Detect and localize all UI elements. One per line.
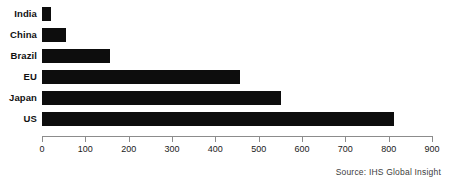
bar-row: Japan	[0, 88, 449, 108]
x-axis-tick-label: 600	[294, 144, 309, 155]
category-label-eu: EU	[0, 72, 37, 82]
x-axis-tick-label: 900	[424, 144, 439, 155]
bar-row: Brazil	[0, 46, 449, 66]
bar-us	[42, 112, 394, 126]
x-axis-tick-label: 400	[208, 144, 223, 155]
x-axis-tick	[389, 136, 390, 142]
bar-track	[42, 49, 432, 63]
x-axis-ticks	[42, 136, 432, 142]
x-axis-tick	[129, 136, 130, 142]
bar-track	[42, 28, 432, 42]
x-axis-tick-label: 200	[121, 144, 136, 155]
category-label-brazil: Brazil	[0, 51, 37, 61]
bar-row: US	[0, 109, 449, 129]
x-axis-tick-labels: 0100200300400500600700800900	[0, 144, 449, 158]
bar-row: India	[0, 4, 449, 24]
category-label-us: US	[0, 114, 37, 124]
bar-row: EU	[0, 67, 449, 87]
x-axis-tick-label: 0	[39, 144, 44, 155]
category-label-india: India	[0, 9, 37, 19]
bar-brazil	[42, 49, 110, 63]
source-note: Source: IHS Global Insight	[336, 167, 441, 177]
plot-area: India China Brazil EU Japan	[0, 0, 449, 137]
x-axis-tick	[85, 136, 86, 142]
bar-chart-figure: India China Brazil EU Japan	[0, 0, 449, 188]
x-axis-tick-label: 700	[338, 144, 353, 155]
x-axis-tick-label: 500	[251, 144, 266, 155]
bar-track	[42, 112, 432, 126]
x-axis-tick	[259, 136, 260, 142]
x-axis-tick-label: 100	[78, 144, 93, 155]
bar-row: China	[0, 25, 449, 45]
x-axis-tick	[302, 136, 303, 142]
category-label-china: China	[0, 30, 37, 40]
bar-track	[42, 91, 432, 105]
x-axis-tick	[215, 136, 216, 142]
bar-eu	[42, 70, 240, 84]
x-axis-tick	[172, 136, 173, 142]
bar-china	[42, 28, 66, 42]
bar-japan	[42, 91, 281, 105]
bar-track	[42, 70, 432, 84]
x-axis-tick	[432, 136, 433, 142]
x-axis-tick	[42, 136, 43, 142]
bar-india	[42, 7, 51, 21]
x-axis-tick-label: 300	[164, 144, 179, 155]
x-axis-tick	[345, 136, 346, 142]
bar-track	[42, 7, 432, 21]
x-axis-tick-label: 800	[381, 144, 396, 155]
category-label-japan: Japan	[0, 93, 37, 103]
